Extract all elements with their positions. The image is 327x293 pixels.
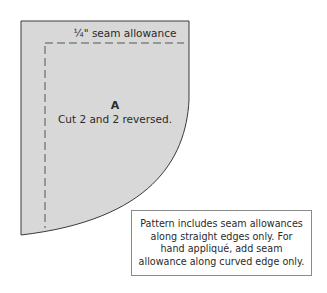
- pattern-piece-outline: [21, 21, 189, 235]
- seam-allowance-note-text: Pattern includes seam allowances along s…: [138, 218, 305, 268]
- seam-allowance-label: ¼" seam allowance: [60, 27, 190, 39]
- seam-allowance-note-box: Pattern includes seam allowances along s…: [131, 210, 312, 276]
- cutting-instruction: Cut 2 and 2 reversed.: [55, 113, 175, 125]
- piece-letter: A: [60, 99, 170, 112]
